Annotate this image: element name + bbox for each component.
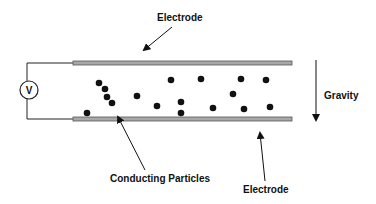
bottom-electrode-label: Electrode: [243, 184, 289, 195]
svg-text:V: V: [26, 85, 33, 96]
particle: [154, 103, 161, 110]
particles-arrow: [118, 117, 145, 170]
particle: [263, 77, 270, 84]
bottom-electrode-arrow: [260, 133, 265, 181]
particle: [238, 76, 245, 83]
top-electrode-arrow: [144, 27, 172, 50]
particle: [198, 76, 205, 83]
gravity-label: Gravity: [324, 90, 358, 101]
particle: [96, 80, 103, 87]
particle: [178, 110, 185, 117]
particle: [102, 86, 109, 93]
particle: [109, 100, 116, 107]
particle: [134, 93, 141, 100]
voltmeter-icon: V: [20, 81, 38, 99]
particle: [104, 94, 111, 101]
bottom-electrode: [73, 117, 292, 121]
particle: [168, 77, 175, 84]
particle: [267, 104, 274, 111]
top-electrode: [73, 61, 292, 65]
particle: [241, 106, 248, 113]
particle: [178, 99, 185, 106]
top-electrode-label: Electrode: [157, 12, 203, 23]
particle: [230, 91, 237, 98]
particle: [210, 105, 217, 112]
conducting-particles: [84, 76, 274, 117]
particle: [84, 110, 91, 117]
conducting-particles-label: Conducting Particles: [110, 173, 210, 184]
